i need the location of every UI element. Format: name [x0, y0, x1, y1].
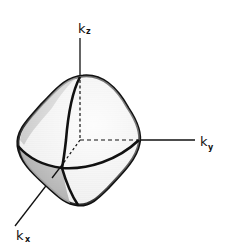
kz-label: k z — [78, 21, 91, 36]
energy-surface — [18, 76, 140, 205]
svg-text:k: k — [78, 21, 86, 36]
svg-text:k: k — [200, 134, 208, 149]
svg-text:k: k — [16, 228, 24, 243]
svg-text:x: x — [25, 235, 31, 244]
svg-text:z: z — [86, 27, 91, 36]
k-space-diagram: k z k y k x — [0, 0, 226, 247]
ky-label: k y — [200, 134, 214, 152]
svg-text:y: y — [208, 143, 214, 152]
kx-label: k x — [16, 228, 31, 244]
